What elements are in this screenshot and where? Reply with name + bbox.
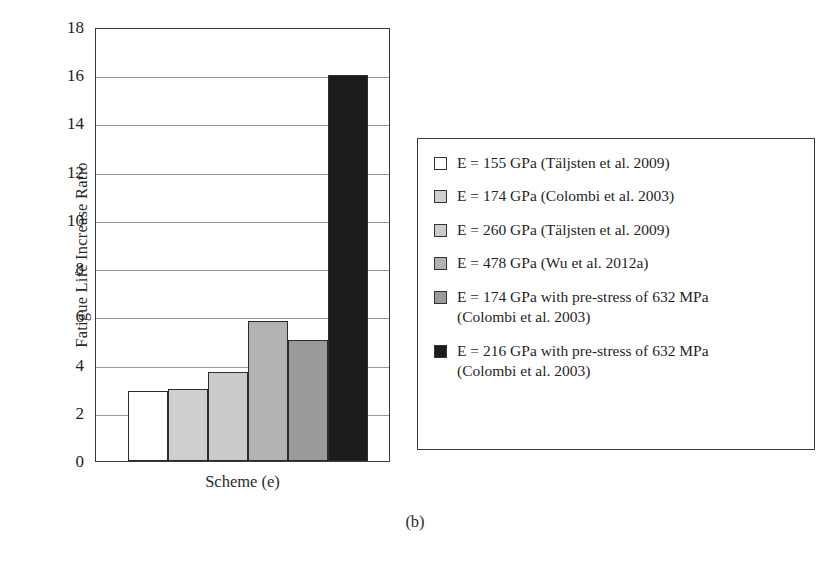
legend-item: E = 174 GPa with pre-stress of 632 MPa (… [434,287,802,328]
y-tick-label: 2 [24,404,84,424]
figure-panel-b: Fatigue Life Increase Ratio 181614121086… [0,0,830,561]
legend-item: E = 155 GPa (Täljsten et al. 2009) [434,153,802,173]
legend-item: E = 174 GPa (Colombi et al. 2003) [434,186,802,206]
plot-area [95,28,390,462]
y-tick-label: 18 [24,18,84,38]
legend-item: E = 260 GPa (Täljsten et al. 2009) [434,220,802,240]
bar [168,389,208,461]
legend-swatch-icon [434,257,447,270]
y-tick-label: 10 [24,211,84,231]
bar [248,321,288,461]
legend-swatch-icon [434,224,447,237]
legend-swatch-icon [434,190,447,203]
legend-swatch-icon [434,291,447,304]
bar [208,372,248,461]
x-axis-category-label: Scheme (e) [95,472,390,492]
legend-item-label: E = 174 GPa (Colombi et al. 2003) [457,186,674,206]
legend-item: E = 478 GPa (Wu et al. 2012a) [434,253,802,273]
legend-item-label: E = 216 GPa with pre-stress of 632 MPa (… [457,341,709,382]
bar [328,75,368,461]
legend-swatch-icon [434,157,447,170]
y-tick-label: 0 [24,452,84,472]
legend-swatch-icon [434,345,447,358]
subfigure-caption: (b) [0,512,830,532]
y-tick-label: 16 [24,66,84,86]
bar [128,391,168,461]
y-tick-label: 12 [24,163,84,183]
legend-item-label: E = 155 GPa (Täljsten et al. 2009) [457,153,670,173]
y-tick-label: 14 [24,114,84,134]
legend-item-label: E = 478 GPa (Wu et al. 2012a) [457,253,649,273]
chart-legend: E = 155 GPa (Täljsten et al. 2009)E = 17… [417,138,815,450]
bar-series [96,29,389,461]
legend-item-label: E = 174 GPa with pre-stress of 632 MPa (… [457,287,709,328]
y-tick-label: 6 [24,307,84,327]
legend-item-label: E = 260 GPa (Täljsten et al. 2009) [457,220,670,240]
legend-item: E = 216 GPa with pre-stress of 632 MPa (… [434,341,802,382]
y-tick-label: 4 [24,356,84,376]
bar [288,340,328,461]
y-tick-label: 8 [24,259,84,279]
